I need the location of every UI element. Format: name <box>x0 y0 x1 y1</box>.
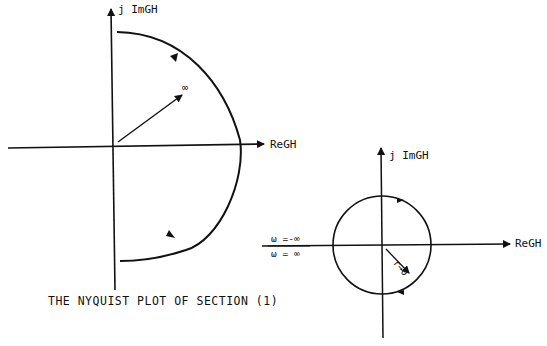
left-imag-axis <box>111 9 115 290</box>
right-imag-axis-label: j ImGH <box>389 150 429 161</box>
left-infinity-label: ∞ <box>182 83 188 93</box>
right-real-axis-label: ReGH <box>515 238 542 249</box>
left-imag-axis-label: j ImGH <box>118 4 158 15</box>
left-arc-arrow-lower <box>166 230 175 238</box>
right-imag-axis <box>381 148 383 338</box>
figure-caption: THE NYQUIST PLOT OF SECTION (1) <box>48 296 278 308</box>
left-nyquist-plot <box>8 9 264 290</box>
omega-negative-infinity-label: ω =-∞ <box>271 234 300 244</box>
left-arc-arrow-upper <box>170 53 178 62</box>
nyquist-diagram-page: j ImGH ReGH ∞ THE NYQUIST PLOT OF SECTIO… <box>0 0 547 346</box>
left-real-axis-label: ReGH <box>270 139 297 150</box>
omega-positive-infinity-label: ω = ∞ <box>271 249 300 259</box>
left-real-axis <box>8 144 264 148</box>
left-radius-arrow <box>118 95 182 142</box>
